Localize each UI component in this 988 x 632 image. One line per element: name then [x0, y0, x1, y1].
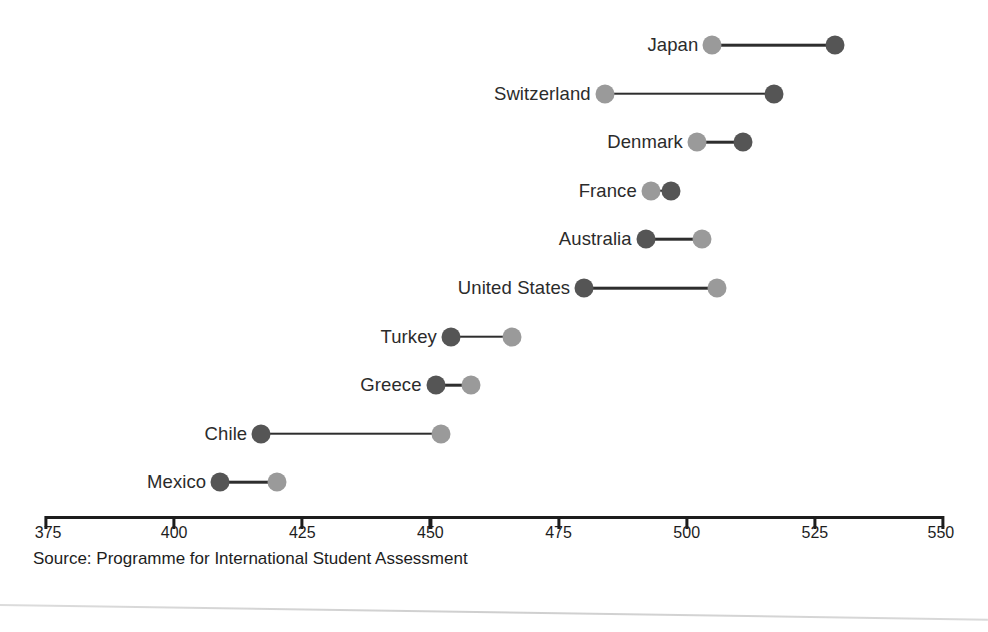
- marker-light-chile[interactable]: [431, 424, 450, 443]
- row-label-mexico: Mexico: [147, 471, 206, 493]
- x-axis-tick-label-375: 375: [35, 524, 62, 542]
- connector-line: [584, 287, 717, 290]
- connector-line: [605, 92, 774, 95]
- marker-dark-france[interactable]: [662, 181, 681, 200]
- connector-line: [261, 433, 440, 436]
- x-axis-tick-label-500: 500: [673, 524, 700, 542]
- marker-light-turkey[interactable]: [503, 327, 522, 346]
- marker-light-mexico[interactable]: [267, 473, 286, 492]
- marker-dark-united-states[interactable]: [575, 279, 594, 298]
- x-axis-tick-label-450: 450: [417, 524, 444, 542]
- x-axis-line: [46, 516, 943, 519]
- marker-dark-chile[interactable]: [252, 424, 271, 443]
- marker-light-greece[interactable]: [462, 376, 481, 395]
- page-separator-line: [0, 604, 988, 621]
- row-label-japan: Japan: [647, 34, 698, 56]
- marker-dark-greece[interactable]: [426, 376, 445, 395]
- x-axis-tick-label-400: 400: [161, 524, 188, 542]
- row-label-australia: Australia: [559, 228, 632, 250]
- marker-dark-japan[interactable]: [826, 36, 845, 55]
- marker-light-australia[interactable]: [693, 230, 712, 249]
- dumbbell-chart: JapanSwitzerlandDenmarkFranceAustraliaUn…: [0, 0, 988, 632]
- marker-light-japan[interactable]: [703, 36, 722, 55]
- marker-dark-denmark[interactable]: [734, 133, 753, 152]
- row-label-france: France: [579, 180, 637, 202]
- connector-line: [712, 44, 835, 47]
- row-label-denmark: Denmark: [607, 131, 683, 153]
- x-axis-tick-label-525: 525: [801, 524, 828, 542]
- marker-light-france[interactable]: [641, 181, 660, 200]
- row-label-chile: Chile: [205, 423, 248, 445]
- plot-area: JapanSwitzerlandDenmarkFranceAustraliaUn…: [0, 0, 988, 510]
- row-label-turkey: Turkey: [380, 326, 436, 348]
- marker-dark-australia[interactable]: [636, 230, 655, 249]
- x-axis-tick-label-550: 550: [928, 524, 955, 542]
- marker-light-denmark[interactable]: [687, 133, 706, 152]
- marker-light-switzerland[interactable]: [595, 84, 614, 103]
- marker-dark-mexico[interactable]: [211, 473, 230, 492]
- marker-light-united-states[interactable]: [708, 279, 727, 298]
- x-axis-tick-label-425: 425: [289, 524, 316, 542]
- row-label-united-states: United States: [458, 277, 570, 299]
- source-note: Source: Programme for International Stud…: [33, 549, 468, 569]
- marker-dark-turkey[interactable]: [441, 327, 460, 346]
- x-axis-tick-label-475: 475: [545, 524, 572, 542]
- marker-dark-switzerland[interactable]: [764, 84, 783, 103]
- row-label-switzerland: Switzerland: [494, 83, 591, 105]
- row-label-greece: Greece: [360, 374, 421, 396]
